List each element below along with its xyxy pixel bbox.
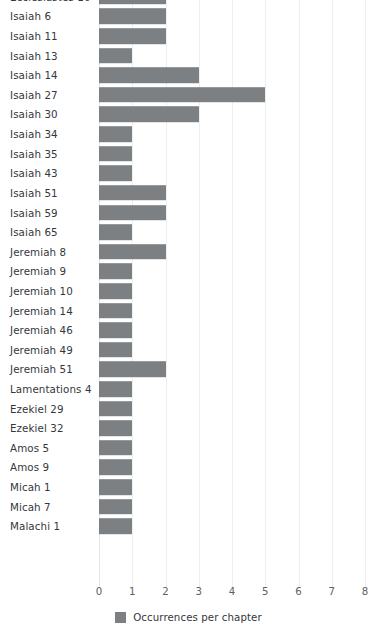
x-axis-tick-label: 8 — [353, 586, 377, 597]
bar[interactable] — [99, 244, 166, 260]
bar[interactable] — [99, 126, 132, 142]
bar-row-label: Jeremiah 8 — [10, 246, 66, 258]
bar[interactable] — [99, 303, 132, 319]
bar[interactable] — [99, 0, 166, 5]
plot-area: Ecclesiastes 10Isaiah 6Isaiah 11Isaiah 1… — [0, 0, 377, 588]
x-axis-tick-label: 4 — [220, 586, 244, 597]
bar-row: Malachi 1 — [0, 516, 377, 536]
bar-row: Ezekiel 29 — [0, 399, 377, 419]
bar[interactable] — [99, 87, 265, 103]
bar-row: Isaiah 43 — [0, 163, 377, 183]
bar-row: Isaiah 27 — [0, 85, 377, 105]
bar[interactable] — [99, 107, 199, 123]
bar-row-label: Isaiah 6 — [10, 10, 51, 22]
bar-row: Amos 5 — [0, 438, 377, 458]
bar-row: Amos 9 — [0, 458, 377, 478]
x-axis-tick-label: 5 — [253, 586, 277, 597]
bar-row: Isaiah 6 — [0, 7, 377, 27]
x-axis-tick-label: 6 — [287, 586, 311, 597]
bar-row: Ezekiel 32 — [0, 418, 377, 438]
bar[interactable] — [99, 165, 132, 181]
bar[interactable] — [99, 205, 166, 221]
bar[interactable] — [99, 224, 132, 240]
bar-row-label: Jeremiah 51 — [10, 363, 73, 375]
bar[interactable] — [99, 28, 166, 44]
x-axis-tick-label: 3 — [187, 586, 211, 597]
bar[interactable] — [99, 420, 132, 436]
bar[interactable] — [99, 48, 132, 64]
bar-row: Jeremiah 9 — [0, 262, 377, 282]
bar-row: Isaiah 30 — [0, 105, 377, 125]
x-axis-tick-label: 1 — [120, 586, 144, 597]
bar-row-label: Isaiah 43 — [10, 167, 58, 179]
x-axis-tick-label: 2 — [154, 586, 178, 597]
bar-row-label: Isaiah 34 — [10, 128, 58, 140]
bar-row-label: Isaiah 11 — [10, 30, 58, 42]
bar-row-label: Isaiah 14 — [10, 69, 58, 81]
bar-row: Isaiah 11 — [0, 26, 377, 46]
bar-row-label: Micah 7 — [10, 501, 51, 513]
bar[interactable] — [99, 499, 132, 515]
bar-row-label: Jeremiah 14 — [10, 305, 73, 317]
bar-chart: Ecclesiastes 10Isaiah 6Isaiah 11Isaiah 1… — [0, 0, 377, 626]
bar-row: Jeremiah 10 — [0, 281, 377, 301]
bar[interactable] — [99, 460, 132, 476]
bar-row: Isaiah 34 — [0, 124, 377, 144]
bar-row: Isaiah 14 — [0, 65, 377, 85]
bar-row-label: Jeremiah 10 — [10, 285, 73, 297]
bar-row-label: Jeremiah 49 — [10, 344, 73, 356]
bar-row: Isaiah 35 — [0, 144, 377, 164]
bar-row: Isaiah 59 — [0, 203, 377, 223]
bar-row: Jeremiah 51 — [0, 360, 377, 380]
bar-row: Jeremiah 49 — [0, 340, 377, 360]
x-axis-tick-label: 7 — [320, 586, 344, 597]
legend-label: Occurrences per chapter — [133, 612, 261, 623]
bar-row-label: Ecclesiastes 10 — [10, 0, 91, 3]
bar-row-label: Micah 1 — [10, 481, 51, 493]
bar-row-label: Amos 9 — [10, 461, 49, 473]
bar-row: Lamentations 4 — [0, 379, 377, 399]
bar[interactable] — [99, 362, 166, 378]
chart-legend: Occurrences per chapter — [0, 608, 377, 626]
bar[interactable] — [99, 322, 132, 338]
bar-row: Ecclesiastes 10 — [0, 0, 377, 7]
bar-row-label: Isaiah 59 — [10, 207, 58, 219]
x-axis-tick-label: 0 — [87, 586, 111, 597]
bar[interactable] — [99, 518, 132, 534]
bar[interactable] — [99, 283, 132, 299]
bar-rows: Ecclesiastes 10Isaiah 6Isaiah 11Isaiah 1… — [0, 0, 377, 536]
bar[interactable] — [99, 9, 166, 25]
bar-row-label: Isaiah 35 — [10, 148, 58, 160]
bar[interactable] — [99, 381, 132, 397]
bar-row-label: Ezekiel 29 — [10, 403, 64, 415]
bar-row-label: Lamentations 4 — [10, 383, 92, 395]
bar-row-label: Amos 5 — [10, 442, 49, 454]
bar[interactable] — [99, 479, 132, 495]
bar-row-label: Isaiah 13 — [10, 50, 58, 62]
bar-row-label: Ezekiel 32 — [10, 422, 64, 434]
bar-row-label: Isaiah 65 — [10, 226, 58, 238]
bar-row-label: Isaiah 27 — [10, 89, 58, 101]
bar[interactable] — [99, 185, 166, 201]
x-axis: 012345678 — [0, 586, 377, 604]
bar-row: Jeremiah 14 — [0, 301, 377, 321]
bar[interactable] — [99, 401, 132, 417]
bar-row: Jeremiah 8 — [0, 242, 377, 262]
bar[interactable] — [99, 67, 199, 83]
bar-row: Isaiah 65 — [0, 222, 377, 242]
bar-row: Micah 7 — [0, 497, 377, 517]
bar-row: Isaiah 51 — [0, 183, 377, 203]
legend-swatch-icon — [115, 612, 126, 623]
bar[interactable] — [99, 264, 132, 280]
bar-row-label: Jeremiah 9 — [10, 265, 66, 277]
bar[interactable] — [99, 342, 132, 358]
bar-row-label: Jeremiah 46 — [10, 324, 73, 336]
bar[interactable] — [99, 146, 132, 162]
bar-row: Isaiah 13 — [0, 46, 377, 66]
bar-row-label: Isaiah 30 — [10, 108, 58, 120]
bar-row: Micah 1 — [0, 477, 377, 497]
bar[interactable] — [99, 440, 132, 456]
bar-row-label: Malachi 1 — [10, 520, 60, 532]
bar-row: Jeremiah 46 — [0, 320, 377, 340]
bar-row-label: Isaiah 51 — [10, 187, 58, 199]
